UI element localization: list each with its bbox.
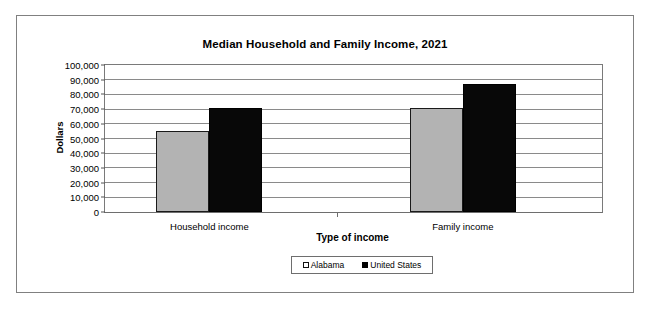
legend-item-alabama: Alabama (303, 260, 345, 270)
y-axis-label: Dollars (54, 108, 65, 168)
y-axis-tick-mark (101, 65, 105, 66)
y-axis-tick-label: 50,000 (70, 133, 99, 144)
legend-label: United States (370, 260, 421, 270)
gridline (105, 109, 602, 110)
gridline (105, 123, 602, 124)
y-axis-tick-label: 0 (94, 207, 99, 218)
y-axis-tick-mark (101, 153, 105, 154)
x-axis-category-label: Family income (432, 221, 493, 232)
gridline (105, 94, 602, 95)
y-axis-tick-label: 20,000 (70, 177, 99, 188)
y-axis-tick-mark (101, 212, 105, 213)
y-axis-tick-label: 100,000 (65, 60, 99, 71)
x-axis-category-label: Household income (170, 221, 249, 232)
y-axis-tick-mark (101, 109, 105, 110)
bar-united-states-household-income (209, 108, 262, 212)
y-axis-tick-label: 40,000 (70, 148, 99, 159)
bar-alabama-household-income (156, 131, 209, 212)
y-axis-tick-mark (101, 79, 105, 80)
y-axis-tick-label: 80,000 (70, 89, 99, 100)
y-axis-tick-mark (101, 138, 105, 139)
bar-alabama-family-income (410, 108, 463, 212)
y-axis-tick-mark (101, 94, 105, 95)
chart-legend: AlabamaUnited States (291, 256, 433, 274)
legend-swatch-icon (362, 262, 368, 268)
gridline (105, 65, 602, 66)
legend-item-united-states: United States (362, 260, 421, 270)
y-axis-tick-mark (101, 123, 105, 124)
x-axis-tick-mark (337, 212, 338, 217)
legend-swatch-icon (303, 262, 309, 268)
plot-area: 010,00020,00030,00040,00050,00060,00070,… (104, 64, 603, 213)
y-axis-tick-mark (101, 182, 105, 183)
chart-title: Median Household and Family Income, 2021 (17, 38, 633, 50)
bar-united-states-family-income (463, 84, 516, 212)
y-axis-tick-mark (101, 167, 105, 168)
x-axis-label: Type of income (104, 232, 601, 243)
y-axis-tick-label: 90,000 (70, 74, 99, 85)
gridline (105, 79, 602, 80)
y-axis-tick-label: 10,000 (70, 192, 99, 203)
y-axis-tick-label: 60,000 (70, 118, 99, 129)
y-axis-tick-mark (101, 197, 105, 198)
chart-figure: Median Household and Family Income, 2021… (16, 15, 634, 293)
legend-label: Alabama (311, 260, 345, 270)
y-axis-tick-label: 30,000 (70, 162, 99, 173)
y-axis-tick-label: 70,000 (70, 104, 99, 115)
